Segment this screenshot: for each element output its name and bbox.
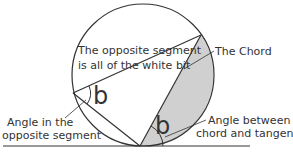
label-chord: The Chord xyxy=(214,45,272,58)
label-angle-opposite-1: Angle in the xyxy=(7,116,74,129)
label-opposite-segment-1: The opposite segment xyxy=(77,44,202,57)
label-angle-opposite-2: opposite segment xyxy=(2,129,102,142)
label-angle-tangent-2: chord and tangent xyxy=(196,127,293,140)
angle-arc-left xyxy=(87,86,91,104)
angle-b-left: b xyxy=(93,82,108,110)
circle-theorem-diagram: b b The opposite segment is all of the w… xyxy=(0,0,293,155)
label-angle-tangent-1: Angle between xyxy=(208,114,290,127)
label-opposite-segment-2: is all of the white bit xyxy=(78,59,191,72)
